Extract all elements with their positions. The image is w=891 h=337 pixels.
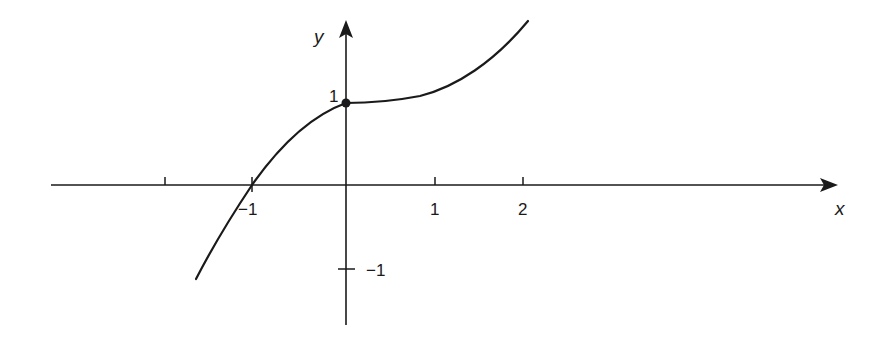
y-tick-label-m1: −1 [366, 261, 385, 280]
x-axis-label: x [834, 198, 846, 219]
function-curve [196, 21, 528, 279]
y-tick-label-1: 1 [329, 87, 338, 106]
x-tick-label-1: 1 [430, 200, 439, 219]
point-0-1 [342, 99, 351, 108]
chart-svg: y x −1 1 2 1 −1 [0, 0, 891, 337]
x-tick-label-m1: −1 [238, 200, 257, 219]
chart-figure: y x −1 1 2 1 −1 [0, 0, 891, 337]
y-axis-label: y [312, 26, 325, 47]
x-tick-label-2: 2 [518, 200, 527, 219]
